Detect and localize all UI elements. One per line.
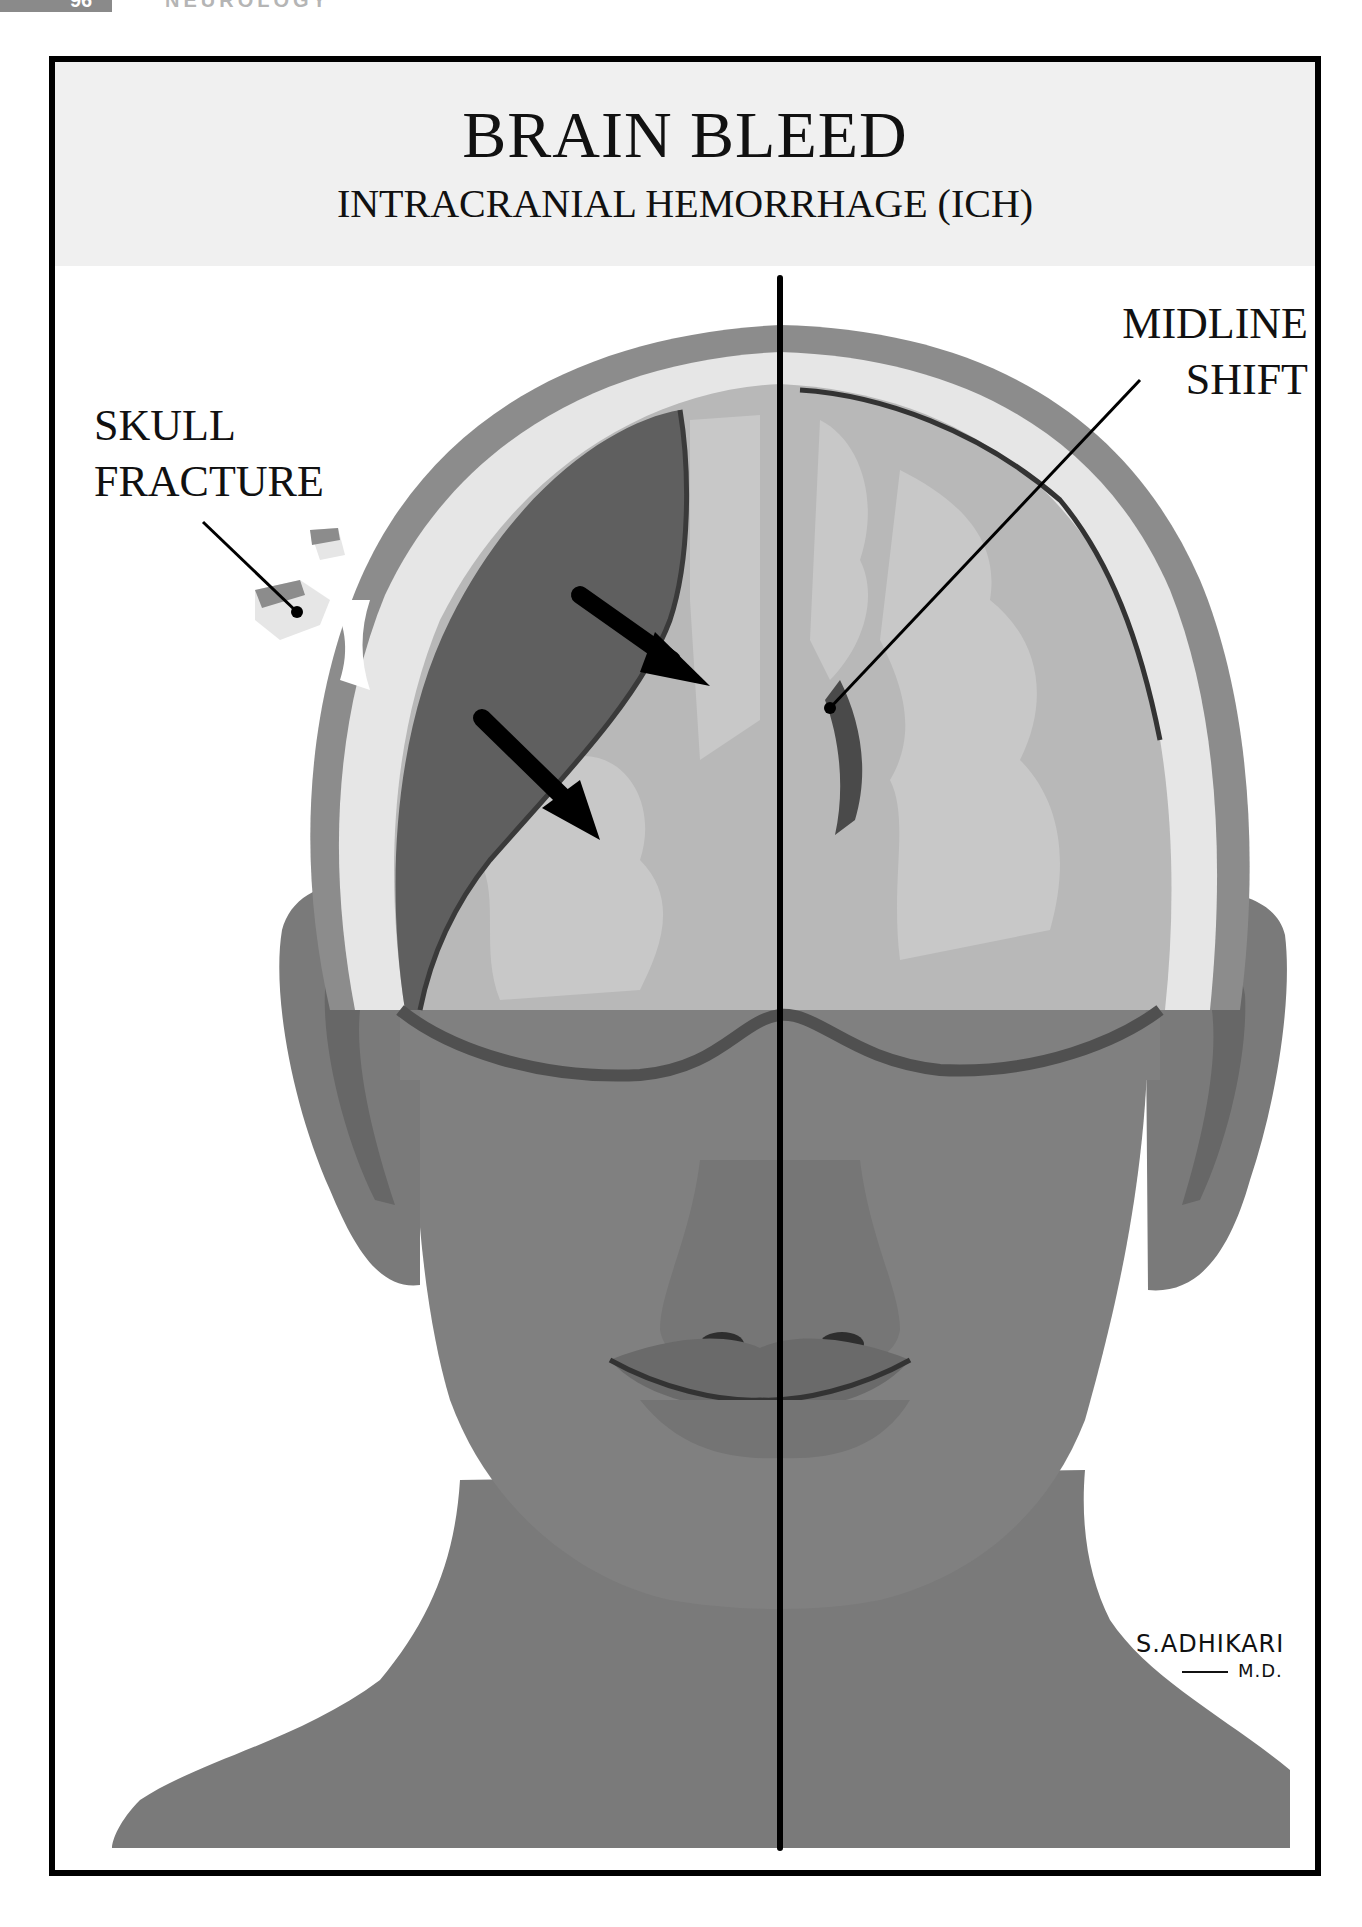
label-skull-fracture-line2: FRACTURE <box>94 454 324 510</box>
artist-signature: S.ADHIKARI M.D. <box>1136 1630 1284 1681</box>
label-midline-shift: MIDLINE SHIFT <box>1122 296 1308 408</box>
skull-fracture-fragments <box>255 528 370 690</box>
signature-name: S.ADHIKARI <box>1136 1630 1284 1658</box>
skull-fracture-leader <box>203 522 297 612</box>
label-midline-shift-line2: SHIFT <box>1122 352 1308 408</box>
label-skull-fracture-line1: SKULL <box>94 398 324 454</box>
signature-dash <box>1182 1671 1228 1673</box>
label-skull-fracture: SKULL FRACTURE <box>94 398 324 510</box>
signature-credential: M.D. <box>1238 1660 1283 1681</box>
skull-fracture-dot <box>291 606 303 618</box>
midline-shift-dot <box>824 702 836 714</box>
label-midline-shift-line1: MIDLINE <box>1122 296 1308 352</box>
